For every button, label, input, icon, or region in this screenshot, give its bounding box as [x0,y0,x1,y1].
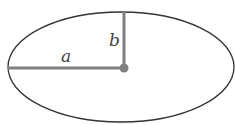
ellipse-diagram: a b [0,0,235,125]
label-b: b [109,30,120,50]
label-a: a [61,46,71,66]
center-point [120,64,129,73]
